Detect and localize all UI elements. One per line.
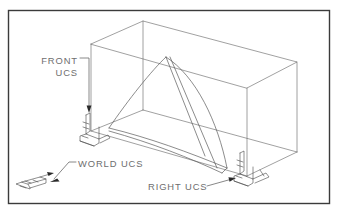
right-ucs-label: RIGHT UCS — [148, 181, 208, 192]
front-ucs-label-line2: UCS — [56, 67, 79, 78]
front-ucs-label-line1: FRONT — [41, 55, 78, 66]
figure-border — [9, 11, 330, 204]
figure-root: FRONT UCS WORLD UCS RIGHT UCS — [0, 0, 339, 214]
technical-drawing-canvas: FRONT UCS WORLD UCS RIGHT UCS — [0, 0, 339, 214]
world-ucs-label: WORLD UCS — [78, 158, 143, 169]
